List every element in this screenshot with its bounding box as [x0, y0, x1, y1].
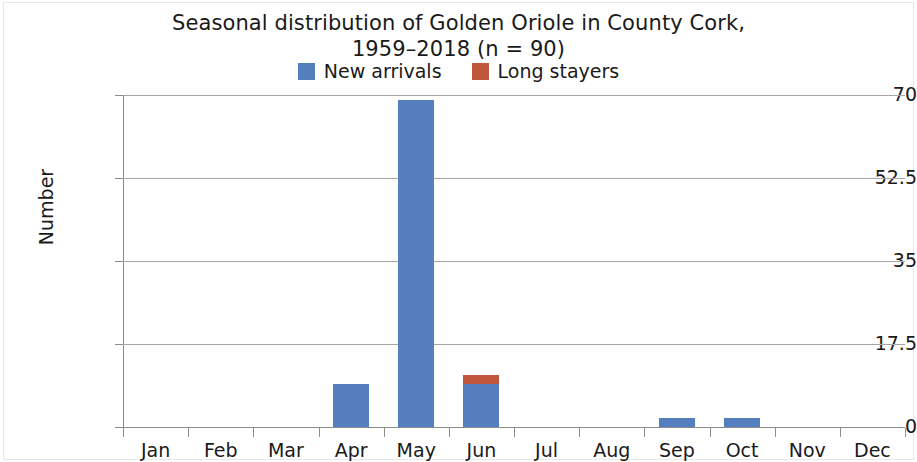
chart-title-line-2: 1959–2018 (n = 90) [0, 36, 917, 62]
x-axis-tick [710, 428, 711, 437]
x-axis-tick-label: May [384, 440, 449, 460]
legend-swatch-long-stayers [472, 63, 489, 80]
x-axis-tick [514, 428, 515, 437]
x-axis-tick [384, 428, 385, 437]
legend-label-long-stayers: Long stayers [498, 62, 620, 81]
x-axis-tick [449, 428, 450, 437]
x-axis-tick [775, 428, 776, 437]
bar-apr [333, 384, 369, 427]
gridline [123, 344, 905, 345]
x-axis-tick-label: Oct [710, 440, 775, 460]
bar-segment-new-arrivals [463, 384, 499, 427]
x-axis-tick-label: Mar [253, 440, 318, 460]
x-axis-tick-label: Feb [188, 440, 253, 460]
legend-swatch-new-arrivals [298, 63, 315, 80]
legend-item-new-arrivals: New arrivals [298, 62, 442, 81]
x-axis-tick [253, 428, 254, 437]
x-axis-tick-label: Jun [449, 440, 514, 460]
legend-label-new-arrivals: New arrivals [324, 62, 442, 81]
bar-segment-new-arrivals [333, 384, 369, 427]
chart-figure: Seasonal distribution of Golden Oriole i… [0, 0, 917, 462]
y-axis-title: Number [35, 147, 57, 267]
bar-segment-new-arrivals [659, 418, 695, 427]
bar-oct [724, 418, 760, 427]
gridline [123, 178, 905, 179]
x-axis-tick [644, 428, 645, 437]
bar-segment-new-arrivals [398, 100, 434, 427]
gridline [123, 95, 905, 96]
x-axis-tick-label: Sep [644, 440, 709, 460]
bar-jun [463, 375, 499, 427]
x-axis-tick-label: Dec [840, 440, 905, 460]
x-axis-tick [319, 428, 320, 437]
chart-title: Seasonal distribution of Golden Oriole i… [0, 10, 917, 62]
bar-sep [659, 418, 695, 427]
x-axis-tick [905, 428, 906, 437]
bar-segment-new-arrivals [724, 418, 760, 427]
x-axis-tick [123, 428, 124, 437]
x-axis-tick-label: Nov [775, 440, 840, 460]
bar-may [398, 100, 434, 427]
chart-title-line-1: Seasonal distribution of Golden Oriole i… [0, 10, 917, 36]
x-axis-tick [840, 428, 841, 437]
x-axis-tick-label: Jul [514, 440, 579, 460]
x-axis-tick-label: Jan [123, 440, 188, 460]
bar-segment-long-stayers [463, 375, 499, 384]
chart-legend: New arrivals Long stayers [0, 62, 917, 81]
x-axis-tick [188, 428, 189, 437]
gridline [123, 261, 905, 262]
legend-item-long-stayers: Long stayers [472, 62, 620, 81]
x-axis-line [123, 427, 905, 428]
x-axis-tick-label: Aug [579, 440, 644, 460]
plot-area [123, 95, 905, 427]
x-axis-tick [579, 428, 580, 437]
x-axis-tick-label: Apr [319, 440, 384, 460]
